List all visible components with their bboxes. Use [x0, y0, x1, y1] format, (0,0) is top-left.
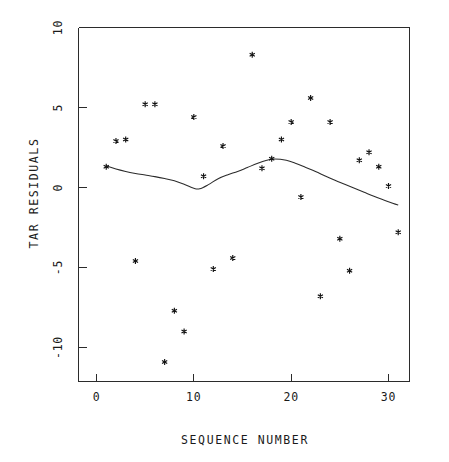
y-tick-label: 0: [51, 184, 65, 192]
x-axis-title: SEQUENCE NUMBER: [181, 433, 309, 447]
y-tick-label: -5: [51, 260, 65, 275]
y-tick-label: 5: [51, 104, 65, 112]
x-tick-label: 0: [93, 390, 101, 404]
x-tick-label: 20: [283, 390, 298, 404]
y-tick-label: -10: [51, 336, 65, 359]
y-tick-label: 10: [51, 20, 65, 35]
x-tick-label: 10: [186, 390, 201, 404]
residuals-scatter-figure: 1050-5-10 0102030 TAR RESIDUALS SEQUENCE…: [0, 0, 449, 462]
x-tick-label: 30: [381, 390, 396, 404]
y-axis-title: TAR RESIDUALS: [27, 138, 41, 249]
